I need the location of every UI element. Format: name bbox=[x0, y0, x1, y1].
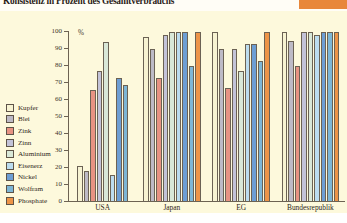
chart-panel: % 1009080706050403020100 KupferBleiZinkZ… bbox=[0, 11, 347, 213]
bar[interactable] bbox=[334, 32, 340, 202]
bar[interactable] bbox=[169, 32, 175, 202]
legend-item[interactable]: Kupfer bbox=[6, 102, 64, 114]
bar[interactable] bbox=[150, 49, 156, 202]
page-title: Konsistenz in Prozent des Gesamtverbrauc… bbox=[3, 0, 174, 6]
legend-swatch-icon bbox=[6, 162, 14, 170]
legend-label: Eisenerz bbox=[18, 162, 42, 170]
x-axis-label: EG bbox=[207, 204, 276, 213]
bar[interactable] bbox=[327, 32, 333, 202]
legend-item[interactable]: Phosphate bbox=[6, 195, 64, 207]
bar[interactable] bbox=[189, 66, 195, 202]
legend-swatch-icon bbox=[6, 150, 14, 158]
plot-background: % 1009080706050403020100 KupferBleiZinkZ… bbox=[0, 11, 347, 213]
legend-item[interactable]: Wolfram bbox=[6, 183, 64, 195]
legend-item[interactable]: Eisenerz bbox=[6, 160, 64, 172]
bar[interactable] bbox=[110, 175, 116, 202]
legend-swatch-icon bbox=[6, 197, 14, 205]
bar[interactable] bbox=[212, 32, 218, 202]
bar[interactable] bbox=[308, 32, 314, 202]
bar[interactable] bbox=[163, 35, 169, 202]
bar[interactable] bbox=[176, 32, 182, 202]
legend-swatch-icon bbox=[6, 127, 14, 135]
legend-swatch-icon bbox=[6, 104, 14, 112]
legend-label: Phosphate bbox=[18, 197, 47, 205]
bar[interactable] bbox=[238, 71, 244, 202]
y-tick-label-box: 70 bbox=[40, 78, 62, 87]
legend-label: Zink bbox=[18, 127, 31, 135]
chart-root: Konsistenz in Prozent des Gesamtverbrauc… bbox=[0, 0, 347, 223]
bar[interactable] bbox=[225, 88, 231, 202]
y-tick-label: 70 bbox=[55, 78, 62, 86]
bar-group bbox=[143, 31, 201, 202]
legend-label: Kupfer bbox=[18, 104, 38, 112]
bar[interactable] bbox=[264, 32, 270, 202]
legend-label: Aluminium bbox=[18, 150, 51, 158]
legend-item[interactable]: Blei bbox=[6, 114, 64, 126]
legend-item[interactable]: Nickel bbox=[6, 172, 64, 184]
bar[interactable] bbox=[258, 61, 264, 202]
x-axis-label: Japan bbox=[137, 204, 206, 213]
legend-item[interactable]: Zinn bbox=[6, 137, 64, 149]
bar[interactable] bbox=[295, 66, 301, 202]
bar[interactable] bbox=[90, 90, 96, 202]
x-axis-label-line1: EG bbox=[207, 204, 276, 213]
y-tick-label-box: 90 bbox=[40, 44, 62, 53]
bar[interactable] bbox=[301, 32, 307, 202]
legend-swatch-icon bbox=[6, 185, 14, 193]
y-tick-label: 90 bbox=[55, 44, 62, 52]
bar[interactable] bbox=[232, 49, 238, 202]
legend-swatch-icon bbox=[6, 173, 14, 181]
bar[interactable] bbox=[195, 32, 201, 202]
legend-label: Blei bbox=[18, 115, 30, 123]
bar[interactable] bbox=[321, 32, 327, 202]
legend-label: Nickel bbox=[18, 173, 37, 181]
y-tick-label-box: 80 bbox=[40, 61, 62, 70]
title-strip: Konsistenz in Prozent des Gesamtverbrauc… bbox=[0, 0, 347, 11]
bar-group bbox=[282, 31, 340, 202]
legend-item[interactable]: Aluminium bbox=[6, 148, 64, 160]
bar-group bbox=[212, 31, 270, 202]
legend-label: Wolfram bbox=[18, 185, 43, 193]
bar[interactable] bbox=[282, 32, 288, 202]
bar-group bbox=[77, 31, 128, 202]
bar[interactable] bbox=[77, 166, 83, 202]
legend-swatch-icon bbox=[6, 115, 14, 123]
bar[interactable] bbox=[97, 71, 103, 202]
legend-swatch-icon bbox=[6, 139, 14, 147]
bar[interactable] bbox=[116, 78, 122, 202]
y-tick-label: 80 bbox=[55, 61, 62, 69]
bar[interactable] bbox=[143, 37, 149, 202]
bar[interactable] bbox=[156, 78, 162, 202]
legend-label: Zinn bbox=[18, 139, 31, 147]
bar[interactable] bbox=[84, 171, 90, 202]
bar[interactable] bbox=[245, 44, 251, 202]
bottom-margin bbox=[0, 213, 347, 223]
y-tick-label-box: 100 bbox=[40, 27, 62, 36]
x-axis-label-line1: USA bbox=[68, 204, 137, 213]
bar[interactable] bbox=[251, 44, 257, 202]
legend-item[interactable]: Zink bbox=[6, 125, 64, 137]
x-axis-label-line1: Japan bbox=[137, 204, 206, 213]
bar[interactable] bbox=[103, 42, 109, 202]
bar[interactable] bbox=[219, 49, 225, 202]
orange-tab-fragment bbox=[299, 0, 347, 9]
chart-legend: KupferBleiZinkZinnAluminiumEisenerzNicke… bbox=[6, 102, 64, 206]
bar[interactable] bbox=[314, 35, 320, 202]
bar[interactable] bbox=[182, 32, 188, 202]
y-tick-label: 100 bbox=[52, 27, 63, 35]
x-axis-label: USA bbox=[68, 204, 137, 213]
bar[interactable] bbox=[123, 85, 129, 202]
bar-groups bbox=[68, 31, 345, 202]
bar[interactable] bbox=[288, 41, 294, 203]
